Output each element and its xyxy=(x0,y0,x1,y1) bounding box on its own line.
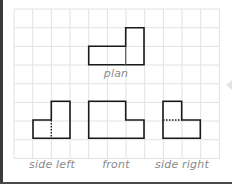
orthographic-views-diagram xyxy=(0,0,232,184)
side-right-label: side right xyxy=(155,158,209,171)
side-left-label: side left xyxy=(29,158,75,171)
square-grid xyxy=(14,9,219,158)
plan-label: plan xyxy=(104,67,129,80)
front-view-shape xyxy=(89,101,144,138)
front-label: front xyxy=(102,158,129,171)
side-left-view-shape xyxy=(33,101,70,138)
previous-arrow-icon[interactable] xyxy=(226,80,232,90)
